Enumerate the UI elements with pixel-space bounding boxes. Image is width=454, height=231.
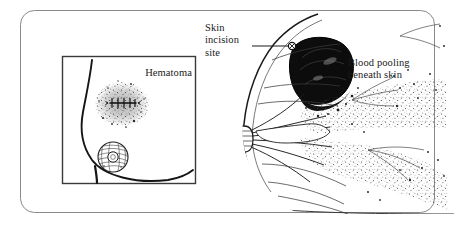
figure-root: Skin incision site Blood pooling beneath… [0, 0, 454, 231]
skin-incision-marker [288, 42, 295, 49]
label-skin-incision-site: Skin incision site [205, 22, 239, 59]
label-hematoma: Hematoma [104, 67, 192, 79]
label-blood-pooling: Blood pooling beneath skin [348, 57, 410, 82]
